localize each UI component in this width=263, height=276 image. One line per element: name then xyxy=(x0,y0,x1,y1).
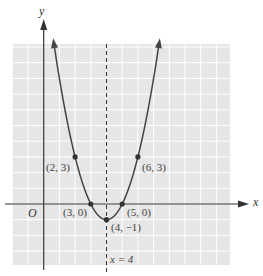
point-label-5-0: (5, 0) xyxy=(127,207,151,218)
parabola-chart xyxy=(0,0,263,276)
point-label-4-neg1: (4, −1) xyxy=(111,222,141,233)
symmetry-label: x = 4 xyxy=(110,254,133,265)
point-label-2-3: (2, 3) xyxy=(46,162,70,173)
point-label-6-3: (6, 3) xyxy=(142,162,166,173)
origin-label: O xyxy=(28,207,37,219)
point-label-3-0: (3, 0) xyxy=(63,207,87,218)
x-axis-label: x xyxy=(253,196,258,208)
y-axis-label: y xyxy=(39,5,44,17)
